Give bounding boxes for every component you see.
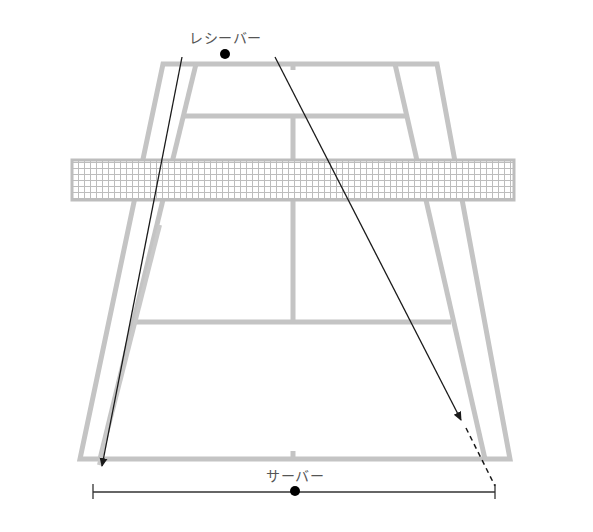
court-lines [80, 64, 510, 459]
receiver-label: レシーバー [189, 27, 262, 47]
tennis-court-diagram [0, 0, 593, 532]
down-the-line-arrow [102, 57, 182, 466]
server-dot [290, 486, 300, 496]
return-path-shadow [99, 225, 160, 465]
server-label: サーバー [266, 465, 324, 485]
net [72, 160, 514, 200]
receiver-dot [220, 49, 230, 59]
